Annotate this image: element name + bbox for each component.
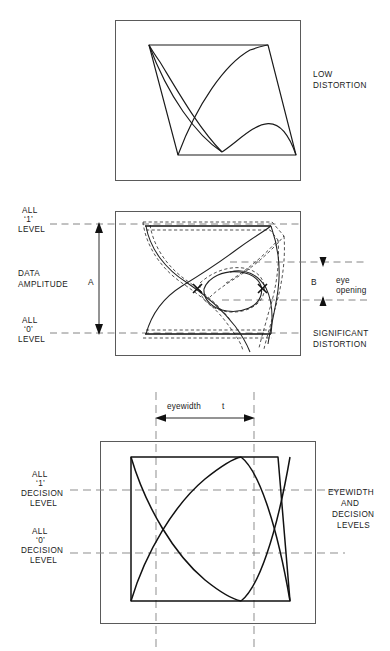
eye-opening-label-line2: opening: [336, 286, 367, 295]
eye-opening-label-line1: eye: [336, 276, 350, 285]
eye-diagram-figure: LOW DISTORTION A: [0, 0, 390, 651]
distortion-envelope-upper: [143, 222, 284, 297]
distortion-envelope-left-2: [150, 225, 231, 321]
eye-curve-falling-3: [131, 457, 241, 601]
eyewidth-symbol: t: [222, 402, 225, 411]
distortion-envelope-eye: [200, 268, 264, 312]
crossing-right-2: [258, 284, 267, 293]
panel-significant-distortion: A B eye opening ALL ‘1’ LEVEL DATA AMPLI…: [18, 206, 369, 356]
all-zero-decision-line1: ALL: [32, 527, 48, 536]
eyewidth-arrow-left: [155, 414, 166, 422]
all-zero-level-line3: LEVEL: [18, 335, 45, 344]
panel-2-caption-line1: SIGNIFICANT: [313, 329, 369, 338]
all-zero-level-line1: ALL: [22, 316, 38, 325]
panel-eyewidth-decision: eyewidth t ALL ‘1’ DECISION LEVEL ALL ‘0…: [21, 392, 374, 648]
panel-2-caption-line2: DISTORTION: [313, 340, 367, 349]
eye-curve-right-down-3: [241, 457, 290, 601]
panel-3-caption-line2: AND: [341, 499, 359, 508]
crossing-left-2: [193, 284, 202, 293]
eye-trace-upper-1: [149, 45, 296, 155]
panel-1-caption-line2: DISTORTION: [313, 81, 367, 90]
all-zero-decision-line4: LEVEL: [30, 556, 57, 565]
all-zero-decision-line2: ‘0’: [36, 536, 45, 545]
all-one-decision-line1: ALL: [32, 470, 48, 479]
panel-3-caption-line1: EYEWIDTH: [328, 488, 374, 497]
all-one-level-line3: LEVEL: [18, 225, 45, 234]
all-one-decision-line3: DECISION: [21, 489, 63, 498]
panel-1-caption-line1: LOW: [313, 70, 333, 79]
eye-curve-right-up-3: [241, 457, 290, 601]
panel-3-caption-line4: LEVELS: [337, 521, 370, 530]
data-amplitude-line1: DATA: [18, 269, 40, 278]
eyewidth-arrow-right: [244, 414, 255, 422]
all-one-decision-line4: LEVEL: [30, 499, 57, 508]
all-one-decision-line2: ‘1’: [36, 479, 45, 488]
eye-inner-loop-2: [204, 272, 262, 312]
all-one-level-line1: ALL: [22, 206, 38, 215]
data-amplitude-line2: AMPLITUDE: [18, 280, 68, 289]
eye-curve-top-1: [178, 45, 268, 155]
dimension-b-label: B: [311, 277, 317, 287]
eye-curve-left-up-2: [146, 226, 271, 334]
all-zero-decision-line3: DECISION: [21, 546, 63, 555]
all-zero-level-line2: ‘0’: [24, 325, 33, 334]
all-one-level-line2: ‘1’: [24, 215, 33, 224]
eyewidth-label: eyewidth: [167, 402, 201, 411]
panel-low-distortion: LOW DISTORTION: [116, 21, 367, 181]
eye-curve-falling-1: [222, 124, 296, 155]
eye-curve-rising-3: [131, 457, 241, 601]
panel-3-caption-line3: DECISION: [332, 510, 374, 519]
eye-trapezoid-3: [131, 457, 290, 601]
dimension-a-label: A: [88, 277, 94, 287]
